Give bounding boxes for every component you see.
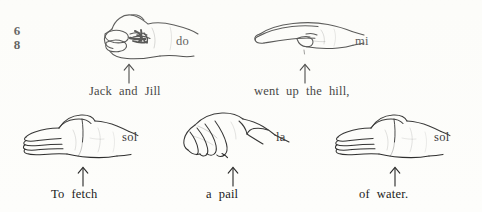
syllable-label-sol-2: sol (434, 130, 450, 145)
lyric-word: a (206, 187, 212, 202)
lyric-word: the (306, 84, 322, 99)
scan-tint-overlay (0, 0, 482, 212)
lyric-sol-1: Tofetch (51, 187, 97, 202)
lyric-word: pail (219, 187, 239, 202)
lyric-word: To (51, 187, 64, 202)
lyric-word: and (119, 84, 138, 99)
lyric-word: Jack (89, 84, 112, 99)
syllable-label-mi: mi (355, 34, 369, 49)
lyric-sol-2: ofwater. (359, 187, 408, 202)
lyric-do: JackandJill (89, 84, 161, 99)
syllable-label-la: la (276, 130, 286, 145)
lyric-word: went (254, 84, 279, 99)
up-arrow-icon-la (226, 165, 240, 187)
time-signature-upper: 6 (9, 24, 25, 38)
up-arrow-icon-sol-2 (388, 165, 402, 187)
lyric-la: apail (206, 187, 238, 202)
syllable-label-sol-1: sol (122, 130, 138, 145)
time-signature: 6 8 (9, 24, 25, 52)
lyric-word: fetch (71, 187, 97, 202)
lyric-word: up (286, 84, 299, 99)
up-arrow-icon-mi (298, 62, 312, 84)
hand-sign-mi-illustration (248, 8, 370, 66)
up-arrow-icon-do (122, 62, 136, 84)
lyric-word: water. (377, 187, 408, 202)
lyric-word: of (359, 187, 370, 202)
time-signature-lower: 8 (9, 38, 25, 52)
lyric-word: Jill (145, 84, 161, 99)
illustration-canvas: 6 8 (0, 0, 482, 212)
lyric-mi: wentupthehill, (254, 84, 350, 99)
up-arrow-icon-sol-1 (76, 165, 90, 187)
syllable-label-do: do (176, 34, 189, 49)
lyric-word: hill, (329, 84, 350, 99)
